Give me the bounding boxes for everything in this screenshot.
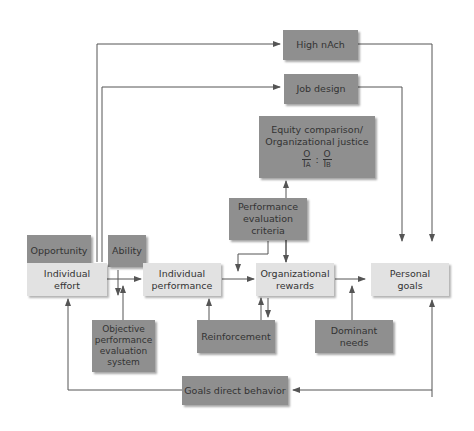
- node-individual-effort: Individual effort: [27, 263, 107, 296]
- label: Individual performance: [147, 268, 217, 292]
- sub-b: B: [326, 161, 331, 169]
- colon: :: [315, 154, 318, 166]
- label-line1: Equity comparison/: [271, 124, 363, 136]
- equity-ratio: OIA : OIB: [298, 150, 335, 170]
- label: Job design: [296, 83, 345, 95]
- node-high-nach: High nAch: [283, 30, 358, 60]
- label: Reinforcement: [201, 331, 270, 343]
- node-goals-direct-behavior: Goals direct behavior: [182, 376, 288, 405]
- label: Ability: [112, 245, 142, 257]
- node-dominant-needs: Dominant needs: [315, 320, 393, 353]
- label: Organizational rewards: [260, 268, 330, 292]
- label: High nAch: [296, 39, 344, 51]
- node-performance-criteria: Performance evaluation criteria: [229, 198, 307, 240]
- sub-a: A: [306, 161, 311, 169]
- label: Performance evaluation criteria: [233, 201, 303, 237]
- label: Opportunity: [30, 245, 87, 257]
- label: Dominant needs: [329, 325, 379, 349]
- node-personal-goals: Personal goals: [371, 263, 449, 296]
- node-reinforcement: Reinforcement: [197, 320, 275, 353]
- label: Personal goals: [390, 268, 430, 292]
- label: Individual effort: [41, 268, 93, 292]
- label-line2: Organizational justice: [265, 136, 368, 148]
- node-objective-performance-evaluation: Objective performance evaluation system: [92, 320, 155, 372]
- label: Objective performance evaluation system: [94, 324, 153, 368]
- label: Goals direct behavior: [184, 385, 285, 397]
- node-job-design: Job design: [284, 74, 358, 104]
- node-individual-performance: Individual performance: [143, 263, 221, 296]
- node-organizational-rewards: Organizational rewards: [256, 263, 334, 296]
- node-ability: Ability: [108, 235, 146, 267]
- node-equity-comparison: Equity comparison/ Organizational justic…: [259, 116, 375, 178]
